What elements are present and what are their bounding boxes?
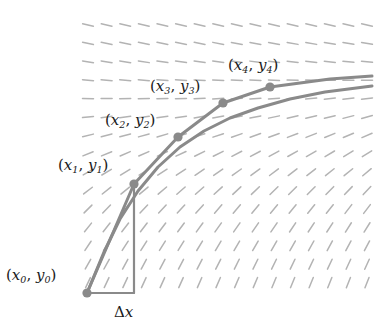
slope-mark [159,241,165,250]
slope-mark [362,133,372,137]
slope-mark [288,151,298,156]
slope-mark [101,24,112,26]
slope-mark [250,134,260,138]
slope-mark [231,80,242,81]
slope-mark [365,259,370,269]
slope-mark [158,169,167,175]
slope-mark [176,169,185,175]
slope-mark [157,42,168,44]
slope-mark [306,61,317,62]
point-label-p0: (x0, y0) [6,268,56,284]
slope-mark [83,116,94,117]
slope-mark [215,241,221,250]
p3-comma: , [170,77,180,95]
slope-mark [138,24,149,26]
slope-mark [122,223,129,232]
slope-mark [364,223,370,232]
slope-mark [343,24,354,26]
slope-mark [159,223,166,232]
slope-mark [84,187,93,194]
slope-mark [234,223,240,232]
slope-mark [157,24,168,26]
slope-mark [306,98,317,99]
slope-mark [120,61,131,63]
slope-mark [123,259,128,269]
delta-x-label: Δx [114,305,133,320]
slope-mark [120,152,130,156]
slope-mark [343,98,354,99]
slope-mark [197,259,202,269]
slope-mark [346,259,351,269]
slope-mark [120,80,131,81]
slope-mark [326,187,334,195]
slope-mark [194,42,205,44]
slope-mark [270,205,277,213]
p0-comma: , [26,266,36,284]
slope-mark [195,187,203,194]
slope-mark [307,169,316,176]
slope-mark [101,80,112,81]
slope-mark [101,61,112,63]
slope-mark [83,80,94,81]
slope-mark [253,241,259,251]
slope-mark [120,42,131,44]
slope-mark [215,223,221,232]
slope-mark [213,134,223,137]
p4-comma: , [248,56,258,74]
slope-mark [140,205,148,213]
slope-mark [214,169,223,175]
slope-mark [269,24,280,26]
slope-mark [104,278,109,288]
slope-mark [120,24,131,26]
slope-mark [253,259,258,269]
slope-mark [362,42,373,44]
slope-mark [343,133,353,137]
slope-mark [364,241,369,251]
slope-mark [306,116,317,119]
slope-mark [253,278,257,288]
p1-comma: , [78,156,88,174]
slope-mark [343,42,354,44]
slope-mark [141,241,147,250]
slope-mark [160,278,165,288]
euler-point-dot-3 [218,98,227,107]
slope-mark [327,259,332,269]
slope-mark [142,278,147,288]
slope-mark [176,116,187,118]
slope-mark [216,278,220,288]
slope-mark [85,241,91,250]
slope-mark [194,61,205,63]
slope-mark [309,259,314,269]
slope-mark [178,241,184,250]
slope-mark [234,241,240,250]
slope-mark [252,205,259,213]
slope-mark [251,151,261,156]
slope-mark [140,223,147,232]
slope-mark [213,24,224,26]
slope-mark [121,169,130,175]
slope-mark [195,151,205,156]
slope-mark [214,187,222,194]
slope-mark [307,187,315,195]
p4-close: ) [272,56,278,74]
slope-mark [102,187,111,194]
slope-mark [103,223,110,232]
slope-mark [250,98,261,99]
slope-mark [269,42,280,44]
slope-mark [328,278,332,288]
p3-close: ) [194,77,200,95]
slope-mark [178,223,185,232]
slope-mark [309,241,314,251]
slope-mark [345,223,351,232]
slope-mark [176,42,187,44]
slope-mark [289,205,296,214]
slope-mark [213,42,224,44]
slope-mark [234,259,239,269]
slope-mark [157,134,168,137]
slope-mark [197,241,203,250]
slope-mark [139,134,150,137]
slope-mark [270,169,279,176]
slope-mark [157,61,168,63]
slope-mark [272,278,276,288]
slope-mark [231,42,242,44]
